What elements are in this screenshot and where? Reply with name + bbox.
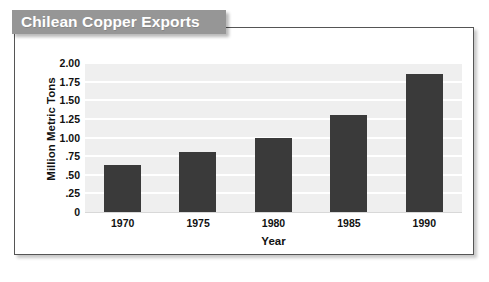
bar <box>255 138 292 213</box>
bar-slot <box>311 63 386 212</box>
y-axis-tick-labels: 2.001.751.501.251.00.75.50.250 <box>48 63 80 212</box>
bar-slot <box>160 63 235 212</box>
bar-shadow <box>184 63 221 118</box>
plot-region <box>85 63 462 212</box>
bar-chart: Million Metric Tons 2.001.751.501.251.00… <box>14 27 474 255</box>
chart-title-text: Chilean Copper Exports <box>12 13 200 31</box>
y-tick-label: 0 <box>74 206 80 218</box>
bar-shadow <box>109 63 146 105</box>
x-axis-title: Year <box>85 235 462 247</box>
y-tick-label: .75 <box>65 150 80 162</box>
bar-slot <box>236 63 311 212</box>
x-axis-tick-labels: 19701975198019851990 <box>85 217 462 233</box>
chart-title-banner: Chilean Copper Exports <box>12 10 226 34</box>
y-tick-label: 1.25 <box>60 113 80 125</box>
x-tick-label: 1980 <box>236 217 311 229</box>
bar <box>179 152 216 212</box>
bar-slot <box>387 63 462 212</box>
y-tick-label: 2.00 <box>60 57 80 69</box>
y-tick-label: 1.50 <box>60 94 80 106</box>
bars-layer <box>85 63 462 212</box>
bar-shadow <box>260 63 297 133</box>
axis-baseline <box>85 212 462 213</box>
bar <box>330 115 367 212</box>
bar <box>104 165 141 212</box>
bar-slot <box>85 63 160 212</box>
x-tick-label: 1975 <box>160 217 235 229</box>
bar <box>406 74 443 212</box>
x-tick-label: 1990 <box>387 217 462 229</box>
y-tick-label: 1.75 <box>60 76 80 88</box>
y-tick-label: .25 <box>65 187 80 199</box>
y-tick-label: 1.00 <box>60 132 80 144</box>
x-tick-label: 1985 <box>311 217 386 229</box>
x-tick-label: 1970 <box>85 217 160 229</box>
y-tick-label: .50 <box>65 169 80 181</box>
